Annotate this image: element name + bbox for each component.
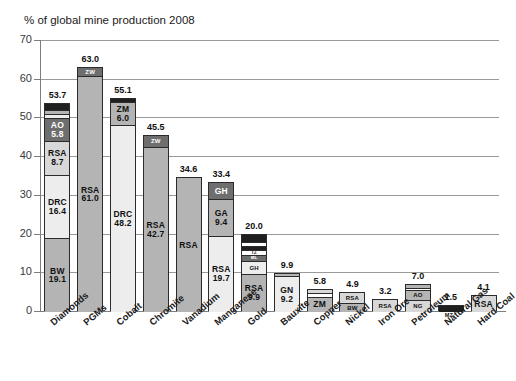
bar-segment-rsa: RSA (177, 178, 201, 312)
segment-value: 5.8 (51, 130, 63, 139)
bar-total-label: 7.0 (396, 271, 440, 281)
segment-value: 9.4 (215, 218, 227, 227)
y-tick-label: 10 (2, 265, 32, 277)
segment-value: 9.2 (281, 295, 293, 304)
segment-value: 8.7 (51, 158, 63, 167)
bar-segment-drc: DRC16.4 (45, 175, 69, 238)
segment-code: AO (413, 292, 422, 298)
y-tick-label: 50 (2, 110, 32, 122)
y-tick-mark (34, 117, 41, 118)
bar-segment-gh: GH (242, 261, 266, 273)
bar-segment (242, 235, 266, 242)
y-tick-label: 40 (2, 149, 32, 161)
y-tick-mark (34, 195, 41, 196)
bar-segment-rsa: RSA8.7 (45, 141, 69, 175)
segment-code: GH (249, 265, 258, 271)
gridline (40, 117, 499, 118)
y-tick-mark (34, 234, 41, 235)
segment-code: RSA (179, 241, 198, 250)
segment-value: 16.4 (49, 207, 66, 216)
chart-title: % of global mine production 2008 (24, 14, 195, 26)
bar-segment-bw: BW19.1 (45, 238, 69, 312)
y-tick-label: 60 (2, 72, 32, 84)
bar-pgms[interactable]: ZWRSA61.0 (77, 67, 103, 311)
segment-value: 19.1 (49, 275, 66, 284)
segment-value: 19.7 (213, 274, 230, 283)
bar-segment-ga: GA9.4 (209, 199, 233, 235)
bar-total-label: 33.4 (199, 169, 243, 179)
segment-value: 48.2 (114, 219, 131, 228)
bar-segment-drc: DRC48.2 (111, 125, 135, 312)
bar-total-label: 53.7 (35, 90, 79, 100)
segment-code: ZW (151, 138, 161, 144)
bar-segment-rsa: RSA61.0 (78, 76, 102, 312)
segment-code: ZW (85, 69, 95, 75)
bar-segment-zm: ZM6.0 (111, 102, 135, 125)
gridline (40, 156, 499, 157)
bar-total-label: 1.5 (429, 292, 473, 302)
bar-chromite[interactable]: ZWRSA42.7 (143, 135, 169, 311)
outer-segment-code: MZ (445, 312, 453, 318)
bar-total-label: 4.1 (462, 282, 506, 292)
y-tick-label: 30 (2, 188, 32, 200)
bar-segment-zw: ZW (78, 68, 102, 76)
bar-segment-ao: AO (406, 290, 430, 300)
y-tick-mark (34, 79, 41, 80)
bar-segment-zw: ZW (144, 136, 168, 147)
y-tick-label: 20 (2, 227, 32, 239)
bar-total-label: 9.9 (265, 260, 309, 270)
segment-code: GH (215, 187, 228, 196)
segment-value: 6.0 (117, 114, 129, 123)
gridline (40, 40, 499, 41)
bar-total-label: 45.5 (134, 122, 178, 132)
bar-total-label: 55.1 (101, 85, 145, 95)
bar-vanadium[interactable]: RSA (176, 177, 202, 311)
gridline (40, 195, 499, 196)
y-tick-label: 0 (2, 304, 32, 316)
gridline (40, 79, 499, 80)
bar-segment-ao: AO5.8 (45, 118, 69, 140)
bar-segment-rsa: RSA (340, 293, 364, 303)
y-tick-mark (34, 40, 41, 41)
segment-value: 61.0 (82, 194, 99, 203)
segment-code: RSA (346, 295, 359, 301)
bar-segment-gh: GH (209, 183, 233, 200)
gridline (40, 234, 499, 235)
bar-segment-rsa: RSA42.7 (144, 147, 168, 312)
y-tick-mark (34, 156, 41, 157)
bar-total-label: 63.0 (68, 54, 112, 64)
segment-value: 42.7 (147, 230, 164, 239)
y-tick-label: 70 (2, 33, 32, 45)
bar-cobalt[interactable]: ZM6.0DRC48.2 (110, 98, 136, 311)
y-axis-tick-labels: 010203040506070 (0, 0, 32, 381)
bar-diamonds[interactable]: AO5.8RSA8.7DRC16.4BW19.1 (44, 103, 70, 311)
bar-total-label: 3.2 (363, 286, 407, 296)
y-tick-mark (34, 311, 41, 312)
y-tick-mark (34, 272, 41, 273)
bar-total-label: 20.0 (232, 221, 276, 231)
